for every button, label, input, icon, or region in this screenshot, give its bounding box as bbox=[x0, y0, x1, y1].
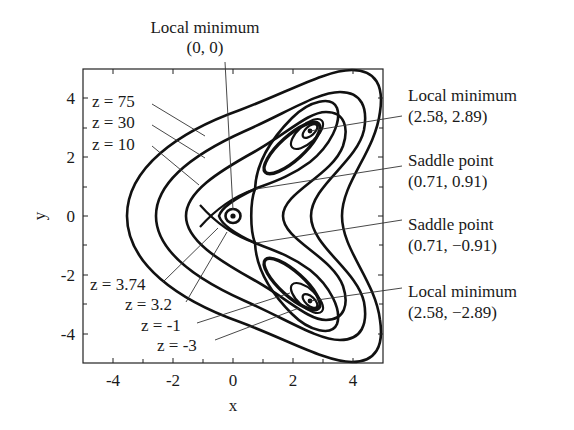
y-tick-label: 4 bbox=[67, 89, 76, 108]
contour-label: z = 75 bbox=[92, 92, 135, 111]
annotation-coords: (0, 0) bbox=[187, 38, 224, 57]
y-tick-label: 2 bbox=[67, 148, 76, 167]
x-tick-labels: -4 -2 0 2 4 bbox=[106, 371, 358, 390]
x-tick-label: -4 bbox=[106, 371, 121, 390]
annotation-coords: (2.58, −2.89) bbox=[408, 303, 497, 322]
annotation-title: Saddle point bbox=[408, 151, 494, 170]
y-tick-label: -2 bbox=[61, 266, 75, 285]
annotation-title: Saddle point bbox=[408, 215, 494, 234]
x-axis-label: x bbox=[229, 396, 238, 415]
contour-label: z = 3.74 bbox=[90, 275, 146, 294]
y-axis-label: y bbox=[30, 211, 49, 220]
y-tick-labels: 4 2 0 -2 -4 bbox=[61, 89, 76, 344]
annotation-title: Local minimum bbox=[150, 18, 259, 37]
x-tick-label: 2 bbox=[289, 371, 298, 390]
contour-label: z = -3 bbox=[157, 336, 197, 355]
annotation-title: Local minimum bbox=[408, 282, 517, 301]
x-tick-label: 0 bbox=[229, 371, 238, 390]
x-tick-label: -2 bbox=[166, 371, 180, 390]
point-min-origin bbox=[230, 213, 235, 218]
annotation-title: Local minimum bbox=[408, 86, 517, 105]
contour-label: z = 10 bbox=[92, 135, 135, 154]
y-tick-label: 0 bbox=[67, 207, 76, 226]
annotation-coords: (2.58, 2.89) bbox=[408, 107, 487, 126]
contour-plot: -4 -2 0 2 4 4 2 0 -2 -4 x y Local minimu… bbox=[0, 0, 574, 430]
contour-label: z = 30 bbox=[92, 113, 135, 132]
annotation-coords: (0.71, 0.91) bbox=[408, 172, 487, 191]
annotation-coords: (0.71, −0.91) bbox=[408, 236, 497, 255]
y-tick-label: -4 bbox=[61, 325, 76, 344]
contour-label: z = 3.2 bbox=[125, 295, 172, 314]
x-tick-label: 4 bbox=[349, 371, 358, 390]
contour-z374-connector bbox=[251, 189, 255, 243]
contour-label: z = -1 bbox=[141, 316, 181, 335]
